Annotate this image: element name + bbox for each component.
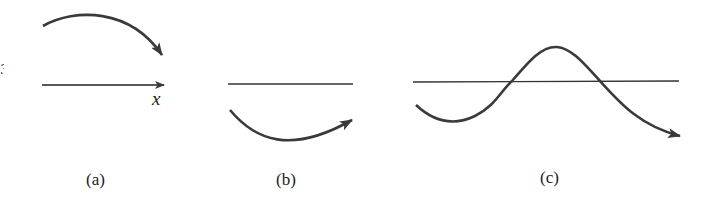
arc-arrow-b — [230, 110, 352, 140]
edge-fragment: 3 — [0, 62, 4, 74]
panel-b — [228, 84, 353, 140]
arc-arrow-a — [43, 15, 162, 55]
figure-canvas — [0, 0, 715, 203]
panel-c — [413, 47, 680, 136]
panel-label-a: (a) — [86, 170, 105, 190]
wave-arrow-c — [416, 47, 680, 136]
baseline-c — [413, 81, 679, 82]
panel-label-b: (b) — [276, 170, 296, 190]
panel-label-c: (c) — [540, 168, 559, 188]
panel-a — [42, 15, 164, 85]
axis-label-x: x — [152, 88, 160, 110]
